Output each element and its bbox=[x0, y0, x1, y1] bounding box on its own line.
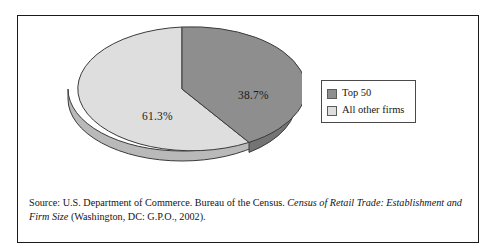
source-note: Source: U.S. Department of Commerce. Bur… bbox=[29, 196, 469, 224]
pie-chart-3d bbox=[62, 21, 302, 181]
chart-legend: Top 50 All other firms bbox=[321, 80, 416, 123]
figure-frame: 38.7% 61.3% Top 50 All other firms Sourc… bbox=[17, 15, 479, 243]
legend-item-all-other-firms: All other firms bbox=[327, 102, 410, 119]
pie-chart-area: 38.7% 61.3% Top 50 All other firms bbox=[18, 16, 477, 191]
pie-data-label-all-other-firms: 61.3% bbox=[142, 110, 173, 122]
source-note-prefix: Source: U.S. Department of Commerce. Bur… bbox=[29, 197, 287, 208]
legend-label-top50: Top 50 bbox=[342, 88, 371, 99]
legend-swatch-all-other-firms-icon bbox=[327, 106, 337, 116]
legend-item-top50: Top 50 bbox=[327, 85, 410, 102]
pie-data-label-top50: 38.7% bbox=[238, 89, 269, 101]
legend-label-all-other-firms: All other firms bbox=[342, 105, 404, 116]
source-note-suffix: (Washington, DC: G.P.O., 2002). bbox=[68, 211, 205, 222]
legend-swatch-top50-icon bbox=[327, 89, 337, 99]
